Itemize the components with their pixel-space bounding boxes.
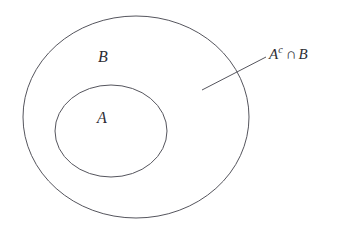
annotation-base: A [269, 46, 278, 62]
venn-diagram-figure: B A Ac∩B [0, 0, 353, 230]
annotation-leader-line [202, 57, 266, 90]
set-a-ellipse [55, 85, 167, 177]
set-b-ellipse [23, 16, 249, 218]
intersection-icon: ∩ [283, 46, 299, 62]
set-b-label: B [98, 49, 108, 65]
region-annotation-label: Ac∩B [269, 47, 308, 62]
venn-diagram-canvas [0, 0, 353, 230]
set-a-label: A [97, 110, 107, 126]
annotation-operand: B [299, 46, 308, 62]
